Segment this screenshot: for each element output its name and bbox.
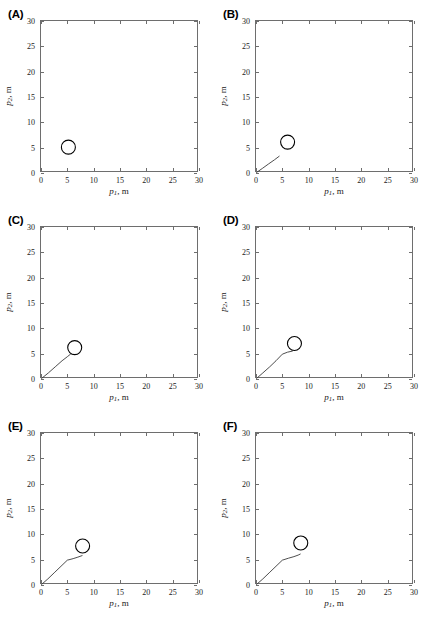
y-tick-label: 0 (246, 375, 250, 384)
x-tick-label: 5 (65, 382, 69, 391)
x-tick-label: 15 (331, 382, 339, 391)
target-circle-marker (294, 536, 308, 550)
x-tick-label: 0 (254, 588, 258, 597)
x-tick-label: 15 (116, 588, 124, 597)
subplot-panel: (F)051015202530051015202530p1, mp2, m (215, 412, 430, 618)
subplot-panel: (B)051015202530051015202530p1, mp2, m (215, 0, 430, 206)
x-axis-label: p1, m (255, 598, 413, 608)
x-tick-label: 5 (280, 588, 284, 597)
plot-axes-box: 051015202530051015202530 (40, 20, 198, 172)
y-tick-label: 20 (27, 273, 35, 282)
x-axis-label-unit: , m (117, 392, 129, 402)
y-tick-label: 25 (242, 454, 250, 463)
y-tick-label: 5 (31, 143, 35, 152)
x-tick-label: 15 (116, 176, 124, 185)
y-axis-label-unit: , m (218, 86, 228, 98)
y-tick-label: 10 (242, 324, 250, 333)
x-tick-label: 5 (65, 176, 69, 185)
x-tick-label: 15 (331, 176, 339, 185)
x-tick-label: 10 (90, 382, 98, 391)
plot-data-layer (255, 432, 415, 586)
y-axis-label-subscript: 2 (221, 304, 228, 307)
x-tick-label: 20 (142, 588, 150, 597)
panel-label: (A) (8, 8, 23, 20)
x-tick-label: 30 (410, 382, 418, 391)
x-tick-label: 0 (39, 382, 43, 391)
plot-data-layer (255, 20, 415, 174)
trajectory-line (257, 156, 280, 172)
y-tick-label: 20 (242, 67, 250, 76)
x-tick-label: 15 (116, 382, 124, 391)
x-tick-label: 30 (195, 382, 203, 391)
x-tick-label: 30 (410, 588, 418, 597)
y-axis-label-subscript: 2 (6, 98, 13, 101)
x-axis-label-unit: , m (117, 186, 129, 196)
subplot-panel: (E)051015202530051015202530p1, mp2, m (0, 412, 215, 618)
y-axis-label: p2, m (218, 292, 228, 311)
y-tick-label: 5 (246, 555, 250, 564)
plot-axes-box: 051015202530051015202530 (40, 226, 198, 378)
y-tick-label: 30 (27, 17, 35, 26)
figure-canvas: (A)051015202530051015202530p1, mp2, m(B)… (0, 0, 430, 619)
y-tick-label: 20 (242, 479, 250, 488)
y-axis-label-var: p (3, 513, 13, 518)
y-axis-label-unit: , m (3, 292, 13, 304)
plot-axes-box: 051015202530051015202530 (255, 226, 413, 378)
y-axis-label-subscript: 2 (6, 510, 13, 513)
target-circle-marker (287, 337, 301, 351)
subplot-panel: (D)051015202530051015202530p1, mp2, m (215, 206, 430, 412)
x-tick-label: 10 (90, 588, 98, 597)
y-tick-label: 0 (246, 169, 250, 178)
x-tick-label: 5 (280, 382, 284, 391)
x-tick-label: 0 (39, 176, 43, 185)
y-tick-label: 15 (27, 93, 35, 102)
target-circle-marker (76, 539, 90, 553)
y-tick-label: 30 (242, 223, 250, 232)
y-axis-label: p2, m (218, 86, 228, 105)
x-axis-label-unit: , m (117, 598, 129, 608)
subplot-panel: (A)051015202530051015202530p1, mp2, m (0, 0, 215, 206)
trajectory-line (257, 351, 293, 378)
x-tick-label: 10 (305, 382, 313, 391)
y-tick-label: 10 (242, 530, 250, 539)
y-tick-label: 20 (242, 273, 250, 282)
trajectory-line (42, 354, 71, 378)
y-tick-label: 30 (242, 429, 250, 438)
y-tick-label: 30 (27, 429, 35, 438)
x-tick-label: 30 (410, 176, 418, 185)
y-tick-label: 15 (27, 299, 35, 308)
x-axis-label-unit: , m (332, 186, 344, 196)
y-axis-label-var: p (218, 101, 228, 106)
y-tick-label: 0 (246, 581, 250, 590)
y-tick-label: 25 (242, 42, 250, 51)
x-tick-label: 20 (357, 176, 365, 185)
x-tick-label: 20 (142, 382, 150, 391)
x-axis-label: p1, m (255, 186, 413, 196)
x-tick-label: 25 (169, 588, 177, 597)
x-tick-label: 30 (195, 588, 203, 597)
y-axis-label-subscript: 2 (221, 510, 228, 513)
plot-axes-box: 051015202530051015202530 (255, 20, 413, 172)
x-tick-label: 25 (384, 176, 392, 185)
y-tick-label: 5 (246, 143, 250, 152)
panel-label: (F) (223, 420, 237, 432)
trajectory-line (42, 556, 83, 585)
y-axis-label-unit: , m (218, 498, 228, 510)
y-tick-label: 15 (242, 299, 250, 308)
y-axis-label-var: p (218, 513, 228, 518)
y-axis-label-unit: , m (218, 292, 228, 304)
plot-data-layer (40, 20, 200, 174)
trajectory-line (257, 554, 301, 584)
x-tick-label: 20 (357, 382, 365, 391)
plot-data-layer (40, 226, 200, 380)
y-tick-label: 20 (27, 479, 35, 488)
y-tick-label: 25 (27, 248, 35, 257)
plot-axes-box: 051015202530051015202530 (40, 432, 198, 584)
target-circle-marker (281, 135, 295, 149)
x-axis-label-unit: , m (332, 392, 344, 402)
y-tick-label: 30 (27, 223, 35, 232)
x-tick-label: 25 (384, 382, 392, 391)
x-tick-label: 0 (254, 382, 258, 391)
x-tick-label: 25 (169, 176, 177, 185)
target-circle-marker (68, 341, 82, 355)
